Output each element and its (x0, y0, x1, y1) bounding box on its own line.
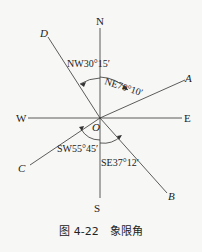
label-origin: O (92, 121, 100, 133)
angle-label-ne: NE70°10′ (103, 75, 144, 98)
line-oc (30, 118, 100, 165)
label-point-b: B (168, 190, 175, 202)
label-point-d: D (39, 27, 48, 39)
arrowhead-sw (79, 126, 84, 131)
angle-label-nw: NW30°15′ (67, 58, 110, 69)
line-ob (100, 118, 167, 193)
angle-label-se: SE37°12′ (101, 157, 139, 168)
label-north: N (96, 15, 104, 27)
figure-caption: 图 4-22 象限角 (0, 222, 202, 238)
label-east: E (184, 112, 191, 124)
label-south: S (94, 202, 100, 214)
 (30, 62, 100, 118)
line-od (48, 37, 100, 118)
label-west: W (16, 112, 27, 124)
angle-label-sw: SW55°45′ (57, 143, 98, 154)
label-point-a: A (184, 72, 192, 84)
quadrant-angle-diagram: N S W E O A B C D NW30°15′ NE70°10′ SW55… (0, 0, 202, 252)
label-point-c: C (18, 162, 26, 174)
